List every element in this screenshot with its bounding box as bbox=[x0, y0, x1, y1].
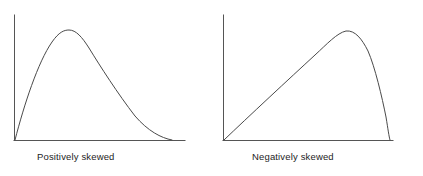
right-chart-curve-negative-skew bbox=[224, 31, 390, 140]
left-chart-curve-positive-skew bbox=[15, 30, 172, 140]
skewness-diagram-canvas bbox=[0, 0, 423, 176]
caption-negatively-skewed: Negatively skewed bbox=[252, 151, 334, 162]
panel-positively-skewed bbox=[14, 15, 185, 141]
panel-negatively-skewed bbox=[223, 15, 393, 141]
skewness-figure: Positively skewed Negatively skewed bbox=[0, 0, 423, 176]
caption-positively-skewed: Positively skewed bbox=[37, 151, 115, 162]
